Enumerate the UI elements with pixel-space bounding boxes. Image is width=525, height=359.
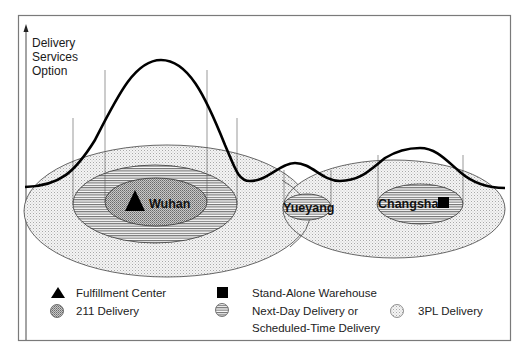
axis-label-line-1: Delivery: [32, 36, 75, 50]
legend-3pl-delivery-label: 3PL Delivery: [418, 305, 483, 317]
stand-alone-warehouse-icon: [438, 197, 449, 208]
city-label-yueyang: Yueyang: [283, 201, 334, 215]
city-label-changsha: Changsha: [378, 197, 439, 211]
legend-stand-alone-warehouse-label: Stand-Alone Warehouse: [252, 287, 377, 299]
legend-211-delivery-label: 211 Delivery: [76, 305, 139, 317]
city-label-wuhan: Wuhan: [149, 197, 190, 211]
legend-fulfillment-center-label: Fulfillment Center: [76, 287, 166, 299]
delivery-services-diagram: Delivery Services Option Wuhan Yueyang C…: [0, 0, 525, 359]
axis-label-line-2: Services: [32, 50, 78, 64]
axis-label-line-3: Option: [32, 64, 67, 78]
legend-next-day-delivery-icon: [216, 304, 229, 317]
legend-next-day-label-line-2: Scheduled-Time Delivery: [252, 322, 380, 334]
legend-211-delivery-icon: [51, 305, 64, 318]
legend-3pl-delivery-icon: [391, 305, 404, 318]
legend-stand-alone-warehouse-icon: [217, 287, 228, 298]
legend-next-day-label-line-1: Next-Day Delivery or: [252, 305, 358, 317]
